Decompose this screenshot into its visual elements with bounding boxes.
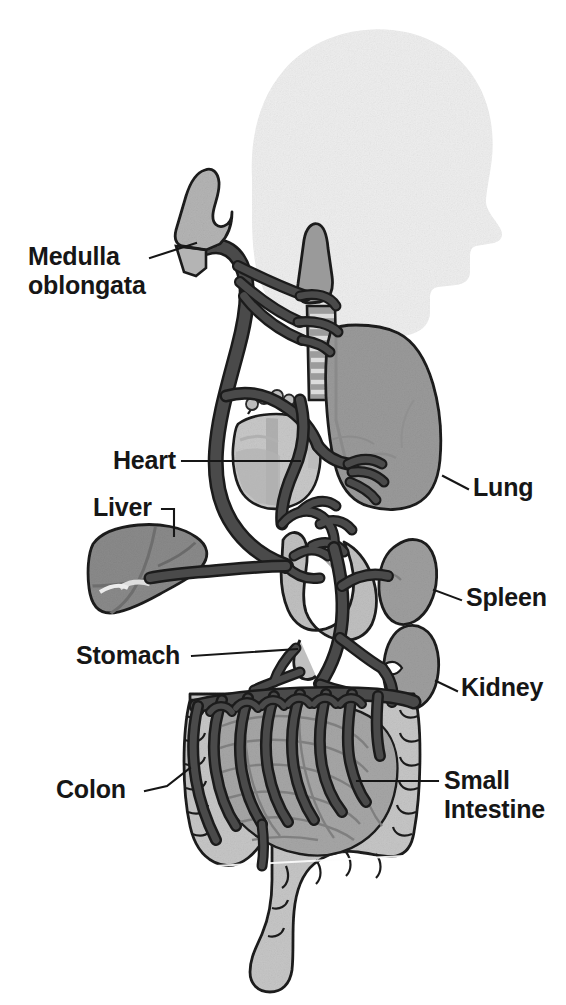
label-spleen[interactable]: Spleen	[434, 583, 547, 611]
head-silhouette	[252, 29, 502, 350]
leader-line-spleen	[434, 590, 461, 600]
label-text-lung: Lung	[473, 473, 533, 501]
leader-line-kidney	[436, 681, 457, 691]
anatomy-diagram: Medulla oblongata Heart Liver Stomach Co…	[0, 0, 566, 1005]
diagram-canvas: Medulla oblongata Heart Liver Stomach Co…	[0, 0, 566, 1005]
label-text-small-intestine-line1: Small	[444, 766, 510, 794]
leader-line-lung	[443, 476, 468, 489]
label-text-small-intestine-line2: Intestine	[444, 795, 545, 823]
label-text-kidney: Kidney	[461, 673, 543, 701]
label-text-heart: Heart	[113, 446, 177, 474]
spleen	[379, 540, 437, 625]
label-lung[interactable]: Lung	[443, 473, 533, 501]
leader-line-stomach	[192, 649, 297, 656]
label-colon[interactable]: Colon	[56, 768, 190, 803]
label-kidney[interactable]: Kidney	[436, 673, 543, 701]
medulla-oblongata	[175, 169, 232, 276]
label-text-spleen: Spleen	[466, 583, 547, 611]
label-text-liver: Liver	[93, 493, 152, 521]
label-text-medulla-oblongata-line1: Medulla	[28, 242, 121, 270]
label-stomach[interactable]: Stomach	[76, 641, 297, 669]
label-text-medulla-oblongata-line2: oblongata	[28, 271, 147, 299]
label-text-stomach: Stomach	[76, 641, 180, 669]
label-text-colon: Colon	[56, 775, 126, 803]
label-medulla-oblongata[interactable]: Medulla oblongata	[28, 242, 196, 299]
